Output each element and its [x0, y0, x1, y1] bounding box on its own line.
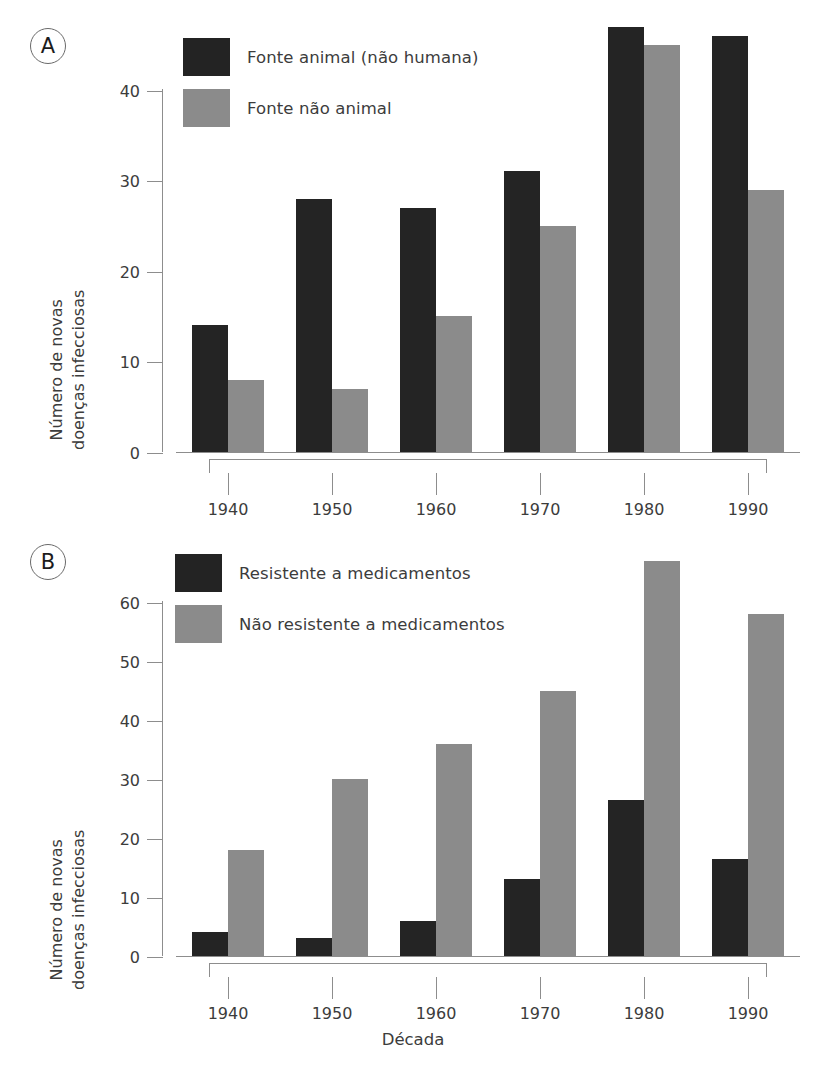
y-tick-mark — [147, 957, 163, 958]
y-tick-b: 0 — [100, 948, 163, 967]
x-axis-bracket-b — [209, 963, 767, 977]
x-axis-label: 1950 — [312, 500, 353, 519]
y-tick-label: 30 — [100, 172, 140, 191]
bar-1950-series2 — [332, 389, 368, 452]
y-tick-b: 40 — [100, 712, 163, 731]
x-axis-label: 1960 — [416, 1004, 457, 1023]
x-axis-label: 1960 — [416, 500, 457, 519]
y-tick-label: 20 — [100, 830, 140, 849]
y-tick-label: 50 — [100, 653, 140, 672]
y-tick-a: 10 — [100, 353, 163, 372]
y-tick-a: 30 — [100, 172, 163, 191]
bar-1950-series1 — [296, 938, 332, 956]
bar-1940-series1 — [192, 932, 228, 956]
x-tick-mark — [748, 977, 749, 999]
bar-1990-series2 — [748, 190, 784, 452]
bar-1990-series2 — [748, 614, 784, 956]
x-tick-mark — [644, 977, 645, 999]
y-tick-b: 10 — [100, 889, 163, 908]
y-tick-mark — [147, 272, 163, 273]
bar-1990-series1 — [712, 36, 748, 452]
bar-1970-series2 — [540, 691, 576, 957]
x-tick-mark — [228, 977, 229, 999]
plot-area-a — [176, 0, 800, 452]
x-axis-label: 1980 — [624, 500, 665, 519]
y-tick-label: 40 — [100, 712, 140, 731]
y-tick-a: 20 — [100, 263, 163, 282]
bar-1980-series2 — [644, 45, 680, 452]
y-tick-b: 50 — [100, 653, 163, 672]
y-tick-a: 40 — [100, 82, 163, 101]
bar-1940-series1 — [192, 325, 228, 452]
panel-b-badge: B — [30, 544, 66, 580]
bar-1970-series1 — [504, 879, 540, 956]
bar-1940-series2 — [228, 850, 264, 956]
y-tick-label: 10 — [100, 889, 140, 908]
bar-1960-series2 — [436, 744, 472, 956]
y-tick-b: 20 — [100, 830, 163, 849]
x-tick-mark — [332, 473, 333, 495]
y-axis-spine-a — [162, 89, 163, 452]
x-tick-mark — [644, 473, 645, 495]
panel-b: B Resistente a medicamentos Não resisten… — [0, 530, 826, 1087]
y-tick-label: 60 — [100, 594, 140, 613]
bar-1980-series2 — [644, 561, 680, 956]
x-tick-mark — [436, 977, 437, 999]
y-tick-mark — [147, 662, 163, 663]
bar-1970-series2 — [540, 226, 576, 452]
bar-1960-series1 — [400, 921, 436, 956]
caption-strip — [0, 1078, 826, 1087]
y-tick-label: 0 — [100, 948, 140, 967]
panel-a-badge: A — [30, 28, 66, 64]
bar-1980-series1 — [608, 800, 644, 956]
bar-1950-series2 — [332, 779, 368, 956]
panel-a: A Fonte animal (não humana) Fonte não an… — [0, 0, 826, 530]
x-tick-mark — [228, 473, 229, 495]
y-tick-b: 30 — [100, 771, 163, 790]
y-tick-label: 40 — [100, 82, 140, 101]
x-axis-label: 1950 — [312, 1004, 353, 1023]
x-axis-label: 1990 — [728, 1004, 769, 1023]
y-axis-title-line2: doenças infecciosas — [69, 290, 88, 450]
y-tick-label: 20 — [100, 263, 140, 282]
y-tick-mark — [147, 839, 163, 840]
x-tick-mark — [436, 473, 437, 495]
bar-1950-series1 — [296, 199, 332, 452]
y-tick-mark — [147, 898, 163, 899]
y-tick-mark — [147, 362, 163, 363]
x-tick-mark — [332, 977, 333, 999]
bar-1960-series2 — [436, 316, 472, 452]
y-tick-mark — [147, 603, 163, 604]
y-axis-title-b: Número de novas doenças infecciosas — [46, 830, 89, 990]
x-axis-label: 1970 — [520, 1004, 561, 1023]
x-axis-label: 1940 — [208, 500, 249, 519]
y-axis-spine-b — [162, 601, 163, 956]
x-axis-label: 1970 — [520, 500, 561, 519]
y-tick-label: 10 — [100, 353, 140, 372]
bar-1970-series1 — [504, 171, 540, 452]
y-axis-title-line2: doenças infecciosas — [69, 830, 88, 990]
x-axis-label: 1980 — [624, 1004, 665, 1023]
bar-1980-series1 — [608, 27, 644, 452]
y-tick-label: 30 — [100, 771, 140, 790]
bar-1990-series1 — [712, 859, 748, 956]
y-axis-title-line1: Número de novas — [47, 839, 66, 980]
bar-1960-series1 — [400, 208, 436, 452]
x-axis-bracket-a — [209, 459, 767, 473]
x-axis-line-a — [176, 452, 800, 453]
x-tick-mark — [748, 473, 749, 495]
x-axis-line-b — [176, 956, 800, 957]
y-tick-b: 60 — [100, 594, 163, 613]
y-tick-mark — [147, 181, 163, 182]
x-axis-label: 1990 — [728, 500, 769, 519]
plot-area-b — [176, 530, 800, 956]
y-tick-a: 0 — [100, 444, 163, 463]
x-axis-title: Década — [0, 1030, 826, 1049]
x-tick-mark — [540, 977, 541, 999]
x-axis-label: 1940 — [208, 1004, 249, 1023]
y-tick-label: 0 — [100, 444, 140, 463]
y-axis-title-a: Número de novas doenças infecciosas — [46, 290, 89, 450]
y-tick-mark — [147, 721, 163, 722]
y-tick-mark — [147, 91, 163, 92]
y-axis-title-line1: Número de novas — [47, 299, 66, 440]
